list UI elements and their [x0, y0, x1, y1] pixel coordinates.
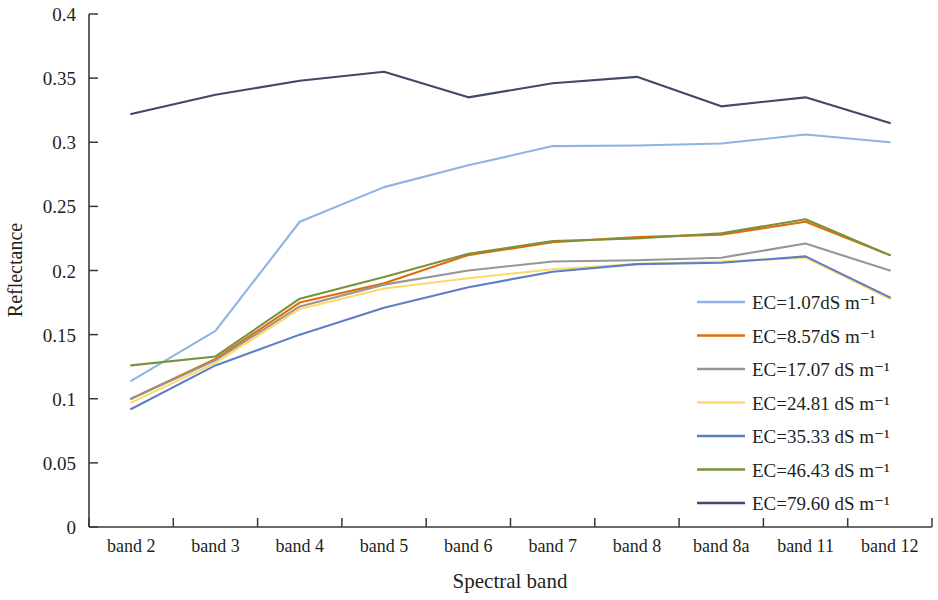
y-tick-label: 0.3 — [52, 132, 76, 153]
x-category-label: band 6 — [444, 536, 493, 556]
y-tick-label: 0.05 — [43, 453, 76, 474]
x-category-label: band 7 — [528, 536, 577, 556]
x-category-label: band 11 — [777, 536, 834, 556]
x-category-label: band 4 — [276, 536, 325, 556]
legend-label-5[interactable]: EC=46.43 dS m⁻¹ — [752, 460, 890, 481]
y-tick-label: 0.1 — [52, 389, 76, 410]
y-tick-label: 0.15 — [43, 325, 76, 346]
x-category-label: band 12 — [861, 536, 919, 556]
y-tick-label: 0.35 — [43, 68, 76, 89]
x-category-label: band 8 — [613, 536, 662, 556]
y-tick-label: 0 — [67, 517, 77, 538]
chart-figure: 00.050.10.150.20.250.30.350.4 band 2band… — [0, 0, 938, 600]
x-category-label: band 2 — [107, 536, 156, 556]
reflectance-line-chart: 00.050.10.150.20.250.30.350.4 band 2band… — [0, 0, 938, 600]
legend-label-2[interactable]: EC=17.07 dS m⁻¹ — [752, 359, 890, 380]
x-category-label: band 5 — [360, 536, 409, 556]
legend-label-1[interactable]: EC=8.57dS m⁻¹ — [752, 326, 876, 347]
y-tick-label: 0.4 — [52, 4, 76, 25]
legend-label-0[interactable]: EC=1.07dS m⁻¹ — [752, 292, 876, 313]
x-category-label: band 3 — [191, 536, 240, 556]
legend-label-6[interactable]: EC=79.60 dS m⁻¹ — [752, 493, 890, 514]
legend-label-3[interactable]: EC=24.81 dS m⁻¹ — [752, 393, 890, 414]
y-axis-title: Reflectance — [4, 223, 26, 317]
x-axis-title: Spectral band — [453, 569, 568, 593]
legend-label-4[interactable]: EC=35.33 dS m⁻¹ — [752, 426, 890, 447]
y-tick-label: 0.2 — [52, 261, 76, 282]
x-category-label: band 8a — [693, 536, 749, 556]
y-tick-label: 0.25 — [43, 196, 76, 217]
